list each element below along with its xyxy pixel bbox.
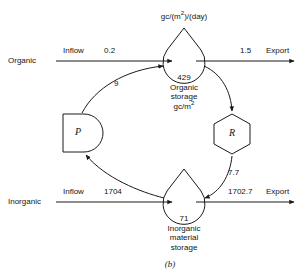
inorganic-storage-label: 71 Inorganic material storage (168, 214, 201, 252)
organic-export-value: 1.5 (240, 46, 251, 56)
inorganic-inflow-label: Inflow (63, 187, 84, 197)
units-header-label: gc/(m2)/(day) (161, 12, 208, 22)
inorganic-to-producer-arrow (86, 155, 164, 198)
inorganic-storage-amount: 71 (168, 214, 201, 224)
inorganic-storage-name-3: storage (168, 243, 201, 253)
organic-storage-amount: 429 (170, 73, 198, 83)
organic-storage-units: gc/m2 (170, 102, 198, 112)
respiration-flow-arrow (204, 66, 232, 111)
organic-storage-label: 429 Organic storage gc/m2 (170, 73, 198, 111)
inorganic-inflow-value: 1704 (104, 187, 122, 197)
diagram-canvas (0, 0, 308, 278)
producer-symbol-label: P (75, 127, 81, 137)
inorganic-storage-name-1: Inorganic (168, 224, 201, 234)
organic-inflow-value: 0.2 (104, 46, 115, 56)
respiration-flow-value: 7.7 (228, 168, 239, 178)
inorganic-export-label: Export (266, 187, 289, 197)
producer-symbol-shape (63, 114, 103, 152)
organic-storage-name-1: Organic (170, 83, 198, 93)
organic-inflow-label: Inflow (63, 46, 84, 56)
inorganic-export-value: 1702.7 (228, 187, 252, 197)
inorganic-row-label: Inorganic (8, 197, 41, 207)
organic-row-label: Organic (8, 56, 36, 66)
figure-caption: (b) (165, 259, 176, 269)
production-flow-value: 9 (114, 79, 118, 89)
inorganic-storage-name-2: material (168, 233, 201, 243)
organic-export-label: Export (266, 46, 289, 56)
production-flow-arrow (82, 66, 163, 113)
respiration-symbol-label: R (229, 128, 235, 138)
energy-flow-diagram: gc/(m2)/(day) Organic Inflow 0.2 1.5 Exp… (0, 0, 308, 278)
